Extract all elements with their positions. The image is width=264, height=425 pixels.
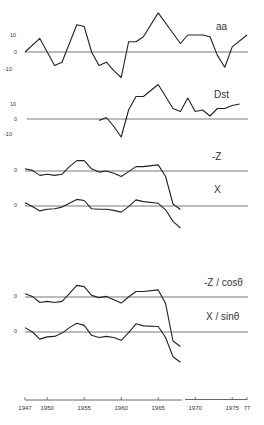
x-tick-label: 1965	[152, 405, 166, 411]
panel-label: -Z / cosθ	[204, 277, 243, 288]
x-tick-label: 1947	[18, 405, 32, 411]
panel-X/sin-theta: 0X / sinθ	[14, 311, 248, 362]
x-tick-label: 1960	[115, 405, 129, 411]
x-tick-label: 1950	[41, 405, 55, 411]
series-line-aa	[25, 13, 247, 78]
panel-aa: 100-10aa	[4, 13, 248, 78]
y-tick-label: 0	[14, 116, 17, 122]
panel-label: aa	[216, 21, 228, 32]
x-tick-label: 1970	[189, 405, 203, 411]
panel-label: -Z	[212, 151, 221, 162]
panel-X: 0X	[14, 184, 248, 228]
y-tick-label: 10	[10, 32, 16, 38]
panel-Dst: 100-10Dst	[4, 85, 248, 138]
y-tick-label: 0	[14, 202, 17, 208]
panel-label: Dst	[214, 89, 229, 100]
chart-panels: 100-10aa100-10Dst0-Z0X0-Z / cosθ0X / sin…	[4, 13, 248, 362]
y-tick-label: -10	[4, 131, 12, 137]
y-tick-label: 0	[14, 328, 17, 334]
x-tick-label: 77	[244, 405, 251, 411]
stacked-time-series-chart: 100-10aa100-10Dst0-Z0X0-Z / cosθ0X / sin…	[0, 0, 264, 425]
y-tick-label: 0	[14, 293, 17, 299]
y-tick-label: 0	[14, 49, 17, 55]
y-tick-label: 0	[14, 167, 17, 173]
panel-label: X / sinθ	[206, 311, 240, 322]
series-line--Z	[25, 161, 180, 210]
y-tick-label: 10	[10, 101, 16, 107]
panel-label: X	[214, 184, 221, 195]
x-tick-label: 1955	[78, 405, 92, 411]
x-axis: 194719501955196019651970197577	[18, 397, 251, 411]
y-tick-label: -10	[4, 66, 12, 72]
x-tick-label: 1975	[226, 405, 240, 411]
panel--Z: 0-Z	[14, 151, 248, 210]
series-line-X	[25, 199, 180, 228]
series-line-X/sin-theta	[25, 323, 180, 362]
